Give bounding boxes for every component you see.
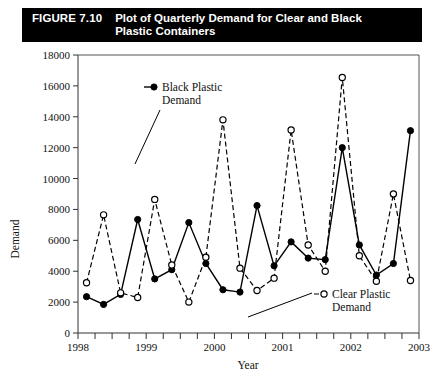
data-point-black-plastic (83, 294, 89, 300)
data-point-clear-plastic (271, 275, 277, 281)
data-point-clear-plastic (135, 294, 141, 300)
y-tick-label: 16000 (43, 80, 71, 92)
chart-area: 0200040006000800010000120001400016000180… (0, 44, 448, 379)
legend-clear-marker (321, 291, 327, 297)
x-tick-label: 2002 (340, 341, 362, 353)
data-point-clear-plastic (288, 127, 294, 133)
y-tick-label: 0 (65, 327, 71, 339)
black-series-label-line1: Black Plastic (162, 81, 222, 93)
figure-title: Plot of Quarterly Demand for Clear and B… (115, 12, 362, 38)
data-point-clear-plastic (373, 278, 379, 284)
y-tick-label: 8000 (48, 203, 71, 215)
y-tick-label: 14000 (43, 111, 71, 123)
y-tick-label: 10000 (43, 173, 71, 185)
y-tick-label: 2000 (48, 296, 71, 308)
data-point-clear-plastic (169, 262, 175, 268)
figure-number: FIGURE 7.10 (32, 12, 102, 25)
data-point-black-plastic (100, 301, 106, 307)
series-layer (83, 74, 413, 307)
clear-series-label-line1: Clear Plastic (332, 288, 390, 300)
data-point-clear-plastic (339, 74, 345, 80)
annotation-layer: Black PlasticDemandClear PlasticDemand (135, 81, 390, 317)
data-point-clear-plastic (305, 242, 311, 248)
data-point-clear-plastic (152, 196, 158, 202)
data-point-black-plastic (407, 128, 413, 134)
data-point-black-plastic (288, 239, 294, 245)
y-axis-ticks: 0200040006000800010000120001400016000180… (43, 49, 79, 339)
data-point-clear-plastic (390, 191, 396, 197)
data-point-black-plastic (271, 263, 277, 269)
figure-title-line1: Plot of Quarterly Demand for Clear and B… (115, 12, 362, 25)
x-tick-label: 2000 (203, 341, 226, 353)
x-axis-title: Year (237, 359, 258, 371)
data-point-clear-plastic (83, 280, 89, 286)
data-point-clear-plastic (220, 117, 226, 123)
data-point-clear-plastic (254, 287, 260, 293)
x-tick-label: 2003 (408, 341, 431, 353)
series-line-clear-plastic (87, 77, 411, 302)
black-series-leader-line (135, 110, 160, 164)
data-point-black-plastic (322, 257, 328, 263)
data-point-black-plastic (339, 145, 345, 151)
data-point-black-plastic (237, 289, 243, 295)
data-point-clear-plastic (186, 299, 192, 305)
data-point-clear-plastic (407, 277, 413, 283)
y-axis-title: Demand (9, 219, 21, 258)
data-point-black-plastic (135, 216, 141, 222)
data-point-clear-plastic (100, 212, 106, 218)
clear-series-label-line2: Demand (332, 301, 371, 313)
data-point-black-plastic (220, 287, 226, 293)
y-tick-label: 4000 (48, 265, 71, 277)
x-tick-label: 1999 (135, 341, 158, 353)
data-point-black-plastic (152, 276, 158, 282)
figure-caption-bar: FIGURE 7.10 Plot of Quarterly Demand for… (22, 8, 422, 42)
data-point-clear-plastic (237, 265, 243, 271)
legend-black-marker (151, 84, 157, 90)
data-point-clear-plastic (356, 253, 362, 259)
y-tick-label: 6000 (48, 234, 71, 246)
y-tick-label: 12000 (43, 142, 71, 154)
x-tick-label: 1998 (67, 341, 90, 353)
data-point-black-plastic (254, 202, 260, 208)
data-point-black-plastic (390, 260, 396, 266)
data-point-black-plastic (305, 255, 311, 261)
quarterly-demand-line-chart: 0200040006000800010000120001400016000180… (0, 44, 448, 379)
black-series-label-line2: Demand (162, 94, 201, 106)
data-point-black-plastic (186, 219, 192, 225)
figure-title-line2: Plastic Containers (115, 25, 362, 38)
x-axis-ticks: 199819992000200120022003 (67, 333, 431, 353)
y-tick-label: 18000 (43, 49, 71, 61)
data-point-clear-plastic (203, 254, 209, 260)
clear-series-leader-line (248, 293, 312, 317)
data-point-clear-plastic (322, 268, 328, 274)
data-point-black-plastic (356, 242, 362, 248)
data-point-clear-plastic (118, 290, 124, 296)
x-tick-label: 2001 (272, 341, 294, 353)
